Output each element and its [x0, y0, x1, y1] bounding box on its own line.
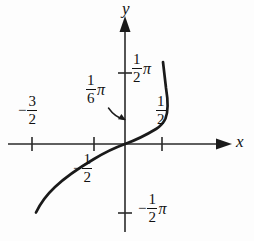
fraction-denominator: 2: [27, 112, 37, 127]
fraction-denominator: 2: [82, 170, 92, 185]
fraction-half: 1 2: [156, 94, 166, 127]
fraction-denominator: 6: [86, 91, 96, 106]
fraction-numerator: 1: [132, 52, 142, 67]
fraction-numerator: 1: [86, 73, 96, 88]
minus-sign: −: [138, 201, 147, 216]
x-tick-label-half: 1 2: [156, 94, 166, 127]
arcsine-graph-figure: y x 1 2 π − 1 2 π − 3 2 − 1: [0, 0, 254, 241]
fraction-numerator: 1: [147, 192, 157, 207]
pi-symbol: π: [96, 82, 106, 98]
fraction-numerator: 1: [156, 94, 166, 109]
fraction-half: 1 2: [147, 192, 157, 225]
annotation-label-sixth-pi: 1 6 π: [86, 73, 105, 106]
minus-sign: −: [18, 103, 27, 118]
fraction-denominator: 2: [147, 210, 157, 225]
graph-canvas: [0, 0, 254, 241]
fraction-half: 1 2: [82, 152, 92, 185]
y-axis-label: y: [122, 0, 130, 17]
pi-symbol: π: [157, 201, 167, 217]
x-axis-label: x: [236, 133, 244, 150]
x-tick-label-neg-half: − 1 2: [73, 152, 92, 185]
y-tick-label-neg-half-pi: − 1 2 π: [138, 192, 166, 225]
fraction-sixth: 1 6: [86, 73, 96, 106]
y-axis-arrowhead: [120, 16, 131, 32]
pi-symbol: π: [142, 61, 152, 77]
fraction-three-halves: 3 2: [27, 94, 37, 127]
fraction-numerator: 3: [27, 94, 37, 109]
fraction-denominator: 2: [156, 112, 166, 127]
fraction-numerator: 1: [82, 152, 92, 167]
y-tick-label-half-pi: 1 2 π: [132, 52, 151, 85]
fraction-half: 1 2: [132, 52, 142, 85]
minus-sign: −: [73, 161, 82, 176]
fraction-denominator: 2: [132, 70, 142, 85]
x-tick-label-neg-three-halves: − 3 2: [18, 94, 37, 127]
x-axis-arrowhead: [216, 139, 232, 150]
